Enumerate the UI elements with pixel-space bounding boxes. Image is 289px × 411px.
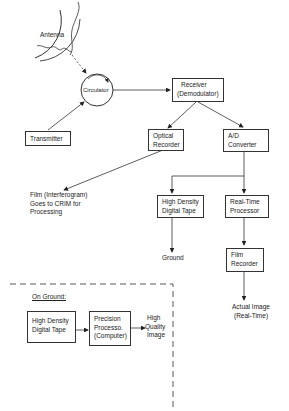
precision-line2: Processo.	[94, 324, 126, 333]
on-ground-title: On Ground:	[32, 293, 66, 302]
output-line3: Image	[145, 331, 165, 340]
ad-converter-line1: A/D	[228, 132, 264, 141]
high-quality-image-label: High Quality Image	[145, 314, 165, 340]
film-recorder-line1: Film	[231, 251, 259, 260]
og-hd-tape-line2: Digital Tape	[32, 326, 71, 335]
receiver-box: Receiver (Demodulator)	[172, 78, 224, 102]
transmitter-text: Transmitter	[30, 135, 66, 144]
high-density-digital-tape-box: High Density Digital Tape	[157, 195, 204, 218]
actual-image-line2: (Real-Time)	[232, 312, 270, 321]
film-note-line2: Goes to CRIM for	[30, 200, 87, 209]
ad-converter-line2: Converter	[228, 141, 264, 150]
on-ground-hd-tape-box: High Density Digital Tape	[27, 311, 76, 343]
precision-processor-box: Precision Processo. (Computer)	[89, 311, 131, 346]
output-line2: Quality	[145, 323, 165, 332]
hd-tape-line2: Digital Tape	[162, 207, 199, 216]
optical-recorder-line1: Optical	[153, 132, 179, 141]
precision-line3: (Computer)	[94, 332, 126, 341]
ground-text: Ground	[162, 254, 184, 263]
film-note-line1: Film (Interferogram)	[30, 191, 87, 200]
actual-image-label: Actual Image (Real-Time)	[232, 303, 270, 320]
circulator-text: Circulator	[83, 86, 109, 95]
circulator-label: Circulator	[83, 86, 109, 95]
receiver-line2: (Demodulator)	[177, 90, 219, 99]
rt-processor-line2: Processor	[230, 207, 264, 216]
optical-recorder-line2: Recorder	[153, 141, 179, 150]
receiver-line1: Receiver	[177, 81, 219, 90]
hd-tape-line1: High Density	[162, 198, 199, 207]
ad-converter-box: A/D Converter	[223, 129, 269, 152]
transmitter-box: Transmitter	[25, 131, 71, 146]
ground-label: Ground	[162, 254, 184, 263]
output-line1: High	[145, 314, 165, 323]
antenna-label: Antenna	[40, 31, 64, 40]
og-hd-tape-line1: High Density	[32, 317, 71, 326]
actual-image-line1: Actual Image	[232, 303, 270, 312]
on-ground-title-text: On Ground:	[32, 293, 66, 302]
film-recorder-line2: Recorder	[231, 260, 259, 269]
optical-recorder-box: Optical Recorder	[148, 129, 184, 151]
film-recorder-box: Film Recorder	[226, 248, 264, 272]
film-note-line3: Processing	[30, 208, 87, 217]
real-time-processor-box: Real-Time Processor	[225, 195, 269, 218]
precision-line1: Precision	[94, 315, 126, 324]
antenna-text: Antenna	[40, 31, 64, 40]
rt-processor-line1: Real-Time	[230, 198, 264, 207]
film-interferogram-note: Film (Interferogram) Goes to CRIM for Pr…	[30, 191, 87, 217]
